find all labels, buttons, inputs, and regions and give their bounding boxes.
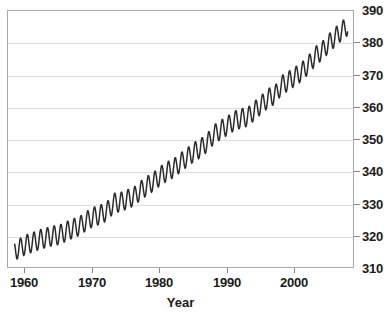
- x-axis-title: Year: [0, 296, 361, 309]
- x-axis: Year 19601970198019902000: [0, 268, 390, 318]
- x-tick-1990: [227, 268, 228, 273]
- y-tick-330: [354, 204, 360, 205]
- y-tick-label-330: 330: [362, 198, 383, 211]
- y-tick-label-390: 390: [362, 4, 383, 17]
- co2-line-chart: 310320330340350360370380390 Year 1960197…: [0, 0, 390, 318]
- series-line-monthly-mean-co2: [15, 20, 348, 259]
- data-series-svg: [8, 11, 353, 267]
- y-tick-360: [354, 107, 360, 108]
- x-tick-label-1960: 1960: [10, 276, 38, 289]
- x-tick-1970: [92, 268, 93, 273]
- y-tick-380: [354, 42, 360, 43]
- y-tick-320: [354, 236, 360, 237]
- plot-area: [7, 10, 354, 268]
- y-tick-label-360: 360: [362, 101, 383, 114]
- x-tick-1980: [159, 268, 160, 273]
- x-tick-label-2000: 2000: [280, 276, 308, 289]
- y-tick-label-320: 320: [362, 230, 383, 243]
- y-tick-370: [354, 75, 360, 76]
- y-tick-350: [354, 139, 360, 140]
- y-tick-label-370: 370: [362, 69, 383, 82]
- y-tick-label-340: 340: [362, 165, 383, 178]
- x-tick-2000: [294, 268, 295, 273]
- x-tick-label-1980: 1980: [145, 276, 173, 289]
- x-tick-1960: [24, 268, 25, 273]
- x-tick-label-1990: 1990: [213, 276, 241, 289]
- y-tick-label-350: 350: [362, 133, 383, 146]
- y-tick-label-380: 380: [362, 36, 383, 49]
- y-tick-340: [354, 171, 360, 172]
- x-tick-label-1970: 1970: [78, 276, 106, 289]
